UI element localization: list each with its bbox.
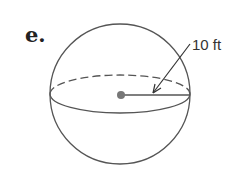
sphere-diagram	[0, 0, 245, 177]
pointer-arrow	[153, 44, 190, 93]
radius-label: 10 ft	[192, 36, 221, 53]
sphere-figure: e. 10 ft	[0, 0, 245, 177]
center-dot	[117, 91, 125, 99]
